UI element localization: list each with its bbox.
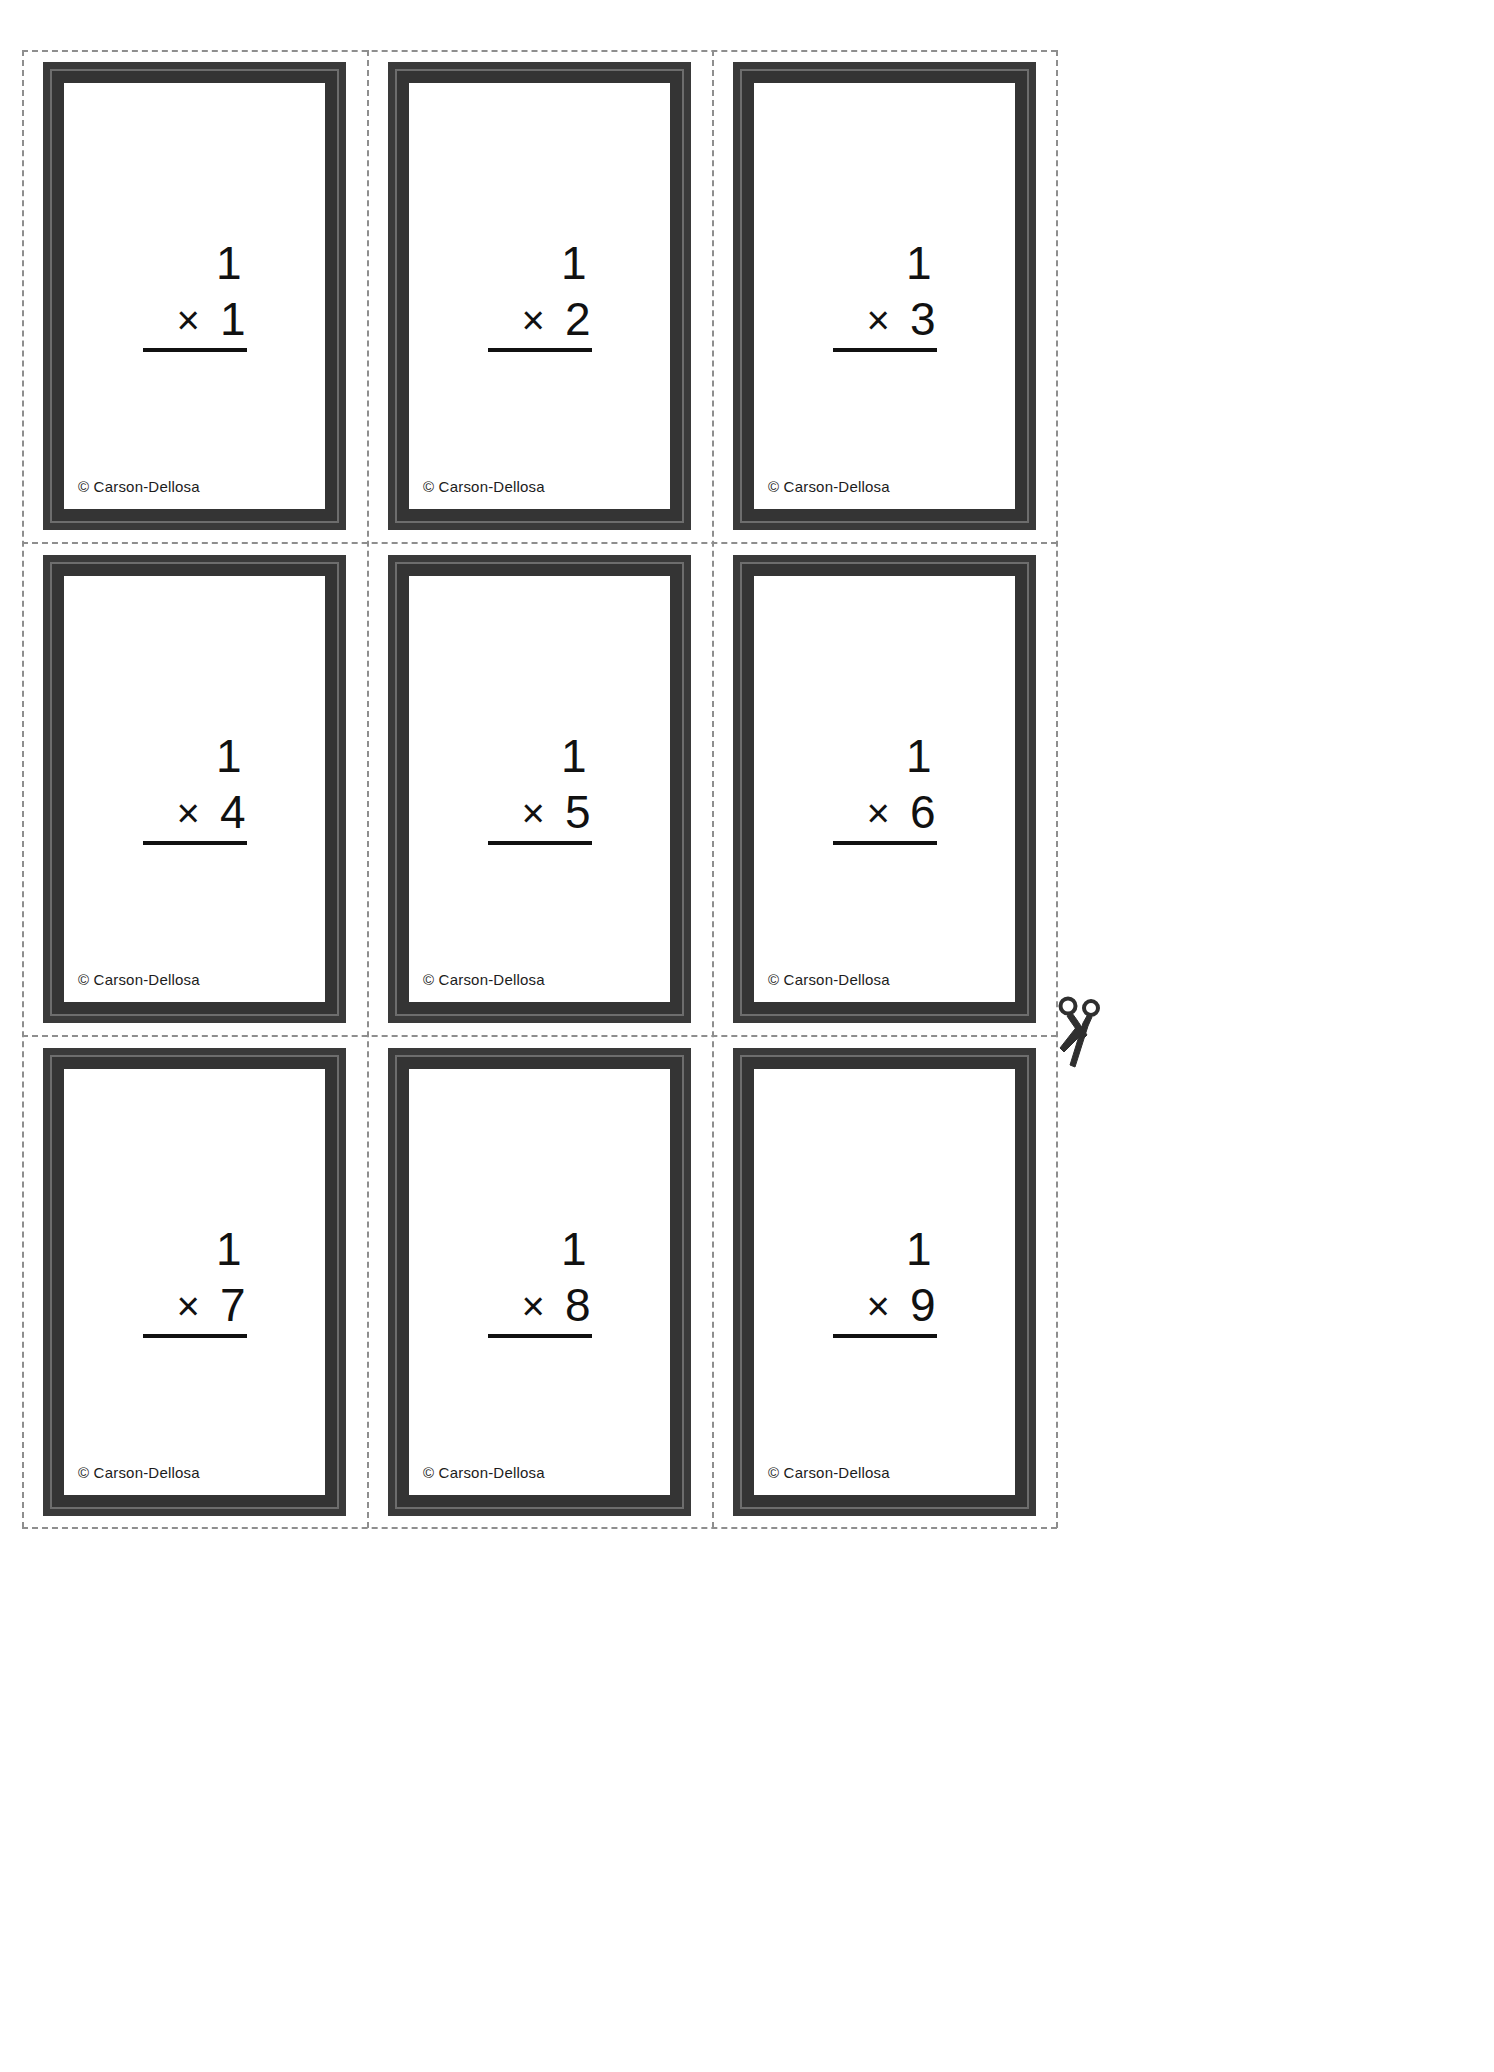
multiplication-problem: 1 × 5 [409, 733, 670, 845]
card-cell: 1 × 8 © Carson-Dellosa [367, 1035, 712, 1528]
flash-card-sheet: 1 × 1 © Carson-Dellosa [0, 0, 1494, 2072]
copyright-notice: © Carson-Dellosa [78, 1464, 200, 1481]
operation-row: × 3 [833, 296, 937, 352]
multiplier: 2 [565, 296, 592, 342]
card-cell: 1 × 9 © Carson-Dellosa [712, 1035, 1057, 1528]
multiplication-operator: × [177, 1286, 200, 1328]
multiplication-problem: 1 × 1 [64, 240, 325, 352]
copyright-notice: © Carson-Dellosa [78, 971, 200, 988]
multiplication-operator: × [522, 793, 545, 835]
flash-card[interactable]: 1 × 6 © Carson-Dellosa [733, 555, 1036, 1023]
operation-row: × 6 [833, 789, 937, 845]
operation-row: × 4 [143, 789, 247, 845]
card-face: 1 × 7 © Carson-Dellosa [52, 1057, 337, 1507]
copyright-notice: © Carson-Dellosa [423, 971, 545, 988]
card-face: 1 × 5 © Carson-Dellosa [397, 564, 682, 1014]
card-cell: 1 × 3 © Carson-Dellosa [712, 50, 1057, 543]
multiplication-problem: 1 × 2 [409, 240, 670, 352]
card-face: 1 × 4 © Carson-Dellosa [52, 564, 337, 1014]
multiplication-operator: × [522, 1286, 545, 1328]
multiplicand: 1 [143, 1226, 247, 1282]
card-face: 1 × 3 © Carson-Dellosa [742, 71, 1027, 521]
copyright-notice: © Carson-Dellosa [768, 478, 890, 495]
operation-row: × 1 [143, 296, 247, 352]
multiplicand: 1 [488, 733, 592, 789]
multiplier: 1 [220, 296, 247, 342]
multiplier: 4 [220, 789, 247, 835]
flash-card[interactable]: 1 × 1 © Carson-Dellosa [43, 62, 346, 530]
multiplication-problem: 1 × 4 [64, 733, 325, 845]
scissors-icon [1058, 995, 1114, 1081]
copyright-notice: © Carson-Dellosa [423, 478, 545, 495]
operation-row: × 5 [488, 789, 592, 845]
card-face: 1 × 9 © Carson-Dellosa [742, 1057, 1027, 1507]
card-grid: 1 × 1 © Carson-Dellosa [22, 50, 1057, 1528]
card-face: 1 × 6 © Carson-Dellosa [742, 564, 1027, 1014]
multiplication-operator: × [522, 300, 545, 342]
multiplication-operator: × [867, 793, 890, 835]
multiplier: 8 [565, 1282, 592, 1328]
card-cell: 1 × 2 © Carson-Dellosa [367, 50, 712, 543]
multiplicand: 1 [143, 733, 247, 789]
flash-card[interactable]: 1 × 8 © Carson-Dellosa [388, 1048, 691, 1516]
copyright-notice: © Carson-Dellosa [768, 1464, 890, 1481]
copyright-notice: © Carson-Dellosa [768, 971, 890, 988]
multiplicand: 1 [488, 240, 592, 296]
card-cell: 1 × 5 © Carson-Dellosa [367, 543, 712, 1036]
card-face: 1 × 1 © Carson-Dellosa [52, 71, 337, 521]
flash-card[interactable]: 1 × 9 © Carson-Dellosa [733, 1048, 1036, 1516]
card-cell: 1 × 7 © Carson-Dellosa [22, 1035, 367, 1528]
operation-row: × 9 [833, 1282, 937, 1338]
multiplicand: 1 [833, 240, 937, 296]
multiplication-problem: 1 × 3 [754, 240, 1015, 352]
multiplication-operator: × [177, 793, 200, 835]
multiplier: 6 [910, 789, 937, 835]
multiplication-problem: 1 × 9 [754, 1226, 1015, 1338]
copyright-notice: © Carson-Dellosa [423, 1464, 545, 1481]
multiplier: 3 [910, 296, 937, 342]
card-face: 1 × 2 © Carson-Dellosa [397, 71, 682, 521]
card-cell: 1 × 1 © Carson-Dellosa [22, 50, 367, 543]
card-cell: 1 × 4 © Carson-Dellosa [22, 543, 367, 1036]
multiplication-operator: × [867, 1286, 890, 1328]
multiplicand: 1 [833, 1226, 937, 1282]
multiplication-operator: × [177, 300, 200, 342]
multiplicand: 1 [488, 1226, 592, 1282]
operation-row: × 8 [488, 1282, 592, 1338]
multiplication-operator: × [867, 300, 890, 342]
operation-row: × 7 [143, 1282, 247, 1338]
flash-card[interactable]: 1 × 4 © Carson-Dellosa [43, 555, 346, 1023]
multiplication-problem: 1 × 8 [409, 1226, 670, 1338]
flash-card[interactable]: 1 × 7 © Carson-Dellosa [43, 1048, 346, 1516]
multiplication-problem: 1 × 7 [64, 1226, 325, 1338]
copyright-notice: © Carson-Dellosa [78, 478, 200, 495]
flash-card[interactable]: 1 × 2 © Carson-Dellosa [388, 62, 691, 530]
multiplicand: 1 [833, 733, 937, 789]
flash-card[interactable]: 1 × 5 © Carson-Dellosa [388, 555, 691, 1023]
multiplicand: 1 [143, 240, 247, 296]
multiplier: 9 [910, 1282, 937, 1328]
multiplication-problem: 1 × 6 [754, 733, 1015, 845]
operation-row: × 2 [488, 296, 592, 352]
multiplier: 7 [220, 1282, 247, 1328]
card-cell: 1 × 6 © Carson-Dellosa [712, 543, 1057, 1036]
flash-card[interactable]: 1 × 3 © Carson-Dellosa [733, 62, 1036, 530]
card-face: 1 × 8 © Carson-Dellosa [397, 1057, 682, 1507]
multiplier: 5 [565, 789, 592, 835]
